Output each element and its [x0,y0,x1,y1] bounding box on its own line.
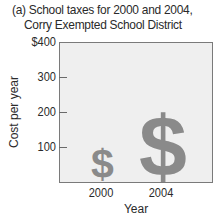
title-line-1: (a) School taxes for 2000 and 2004, [12,2,193,17]
title-line-2: Corry Exempted School District [12,17,193,32]
dollar-symbol-2000: $ [91,144,111,185]
y-tick-mark-300 [59,77,67,78]
dollar-symbol-2004: $ [139,103,185,189]
x-tick-2000: 2000 [83,186,120,200]
y-axis-label: Cost per year [7,76,21,148]
y-tick-200: 200 [23,105,56,119]
y-tick-100: 100 [23,140,56,154]
chart-title: (a) School taxes for 2000 and 2004, Corr… [12,2,193,32]
y-tick-mark-200 [59,112,67,113]
x-axis-label: Year [116,202,156,216]
y-tick-300: 300 [23,70,56,84]
y-tick-mark-100 [59,147,67,148]
x-tick-2004: 2004 [143,186,180,200]
plot-area [59,42,213,183]
y-tick-400: $400 [23,35,56,49]
